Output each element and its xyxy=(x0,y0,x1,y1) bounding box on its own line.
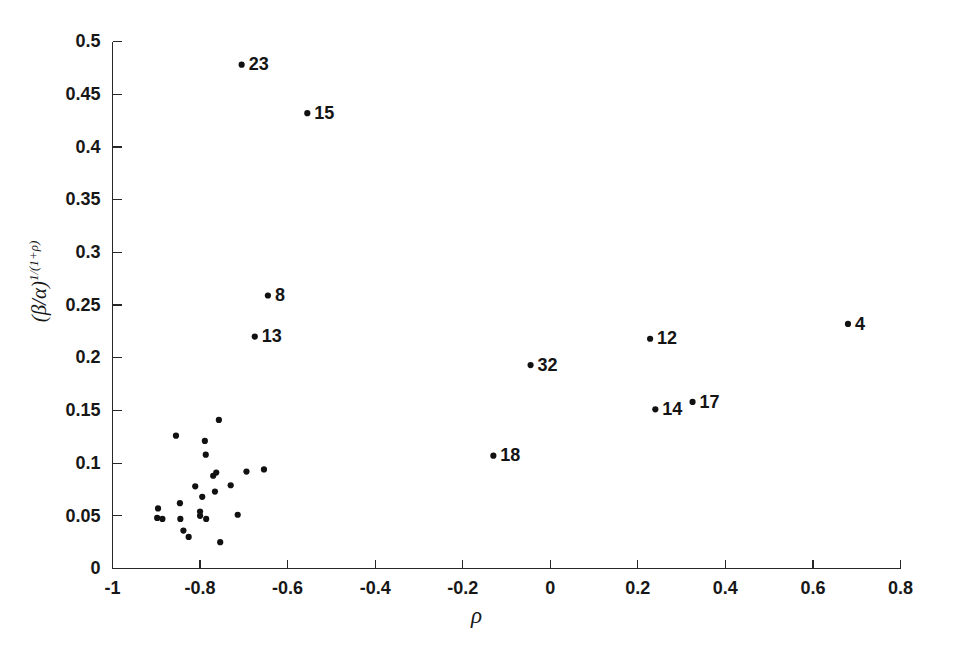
data-point xyxy=(213,469,219,475)
data-points-group xyxy=(154,62,851,546)
data-point xyxy=(203,516,209,522)
data-point-labeled xyxy=(652,406,658,412)
data-point-labeled xyxy=(304,110,310,116)
data-point-label: 14 xyxy=(662,399,682,419)
data-point-label: 23 xyxy=(249,54,269,74)
x-axis-tick-label: -0.6 xyxy=(272,578,303,598)
y-axis-label-base: (β/α) xyxy=(27,281,51,322)
x-axis-tick-label: 0.6 xyxy=(800,578,825,598)
y-axis-tick-label: 0.3 xyxy=(75,242,100,262)
data-point-labeled xyxy=(527,362,533,368)
data-point-label: 12 xyxy=(657,328,677,348)
data-point xyxy=(186,534,192,540)
y-axis-tick-label: 0.35 xyxy=(65,189,100,209)
y-axis-tick-label: 0.1 xyxy=(75,453,100,473)
y-axis-label-exponent: 1/(1+ρ) xyxy=(26,241,41,281)
y-axis-tick-label: 0.5 xyxy=(75,31,100,51)
y-axis-tick-label: 0.45 xyxy=(65,84,100,104)
data-point-label: 17 xyxy=(700,392,720,412)
data-point xyxy=(261,466,267,472)
data-point-labeled xyxy=(252,334,258,340)
tick-labels-group: 00.050.10.150.20.250.30.350.40.450.5-1-0… xyxy=(65,31,913,598)
x-axis-label: ρ xyxy=(0,604,953,627)
data-point-label: 15 xyxy=(314,103,334,123)
data-point-labeled xyxy=(490,453,496,459)
data-point-labeled xyxy=(845,321,851,327)
x-axis-tick-label: -0.4 xyxy=(360,578,391,598)
y-axis-tick-label: 0.4 xyxy=(75,137,100,157)
data-point xyxy=(202,438,208,444)
data-point xyxy=(154,515,160,521)
y-axis-tick-label: 0.25 xyxy=(65,295,100,315)
y-axis-tick-label: 0.15 xyxy=(65,400,100,420)
x-axis-label-text: ρ xyxy=(471,603,482,628)
data-point-labeled xyxy=(689,399,695,405)
data-point xyxy=(159,516,165,522)
data-point xyxy=(177,500,183,506)
y-axis-label: (β/α)1/(1+ρ) xyxy=(27,182,50,382)
x-axis-tick-label: -0.8 xyxy=(185,578,216,598)
x-axis-tick-label: 0.8 xyxy=(888,578,913,598)
point-labels-group: 231581341232171418 xyxy=(249,54,865,465)
data-point-labeled xyxy=(265,292,271,298)
data-point xyxy=(177,516,183,522)
y-axis-tick-label: 0 xyxy=(90,558,100,578)
data-point xyxy=(216,417,222,423)
data-point xyxy=(173,433,179,439)
x-axis-tick-label: 0.2 xyxy=(625,578,650,598)
data-point-label: 32 xyxy=(538,355,558,375)
data-point xyxy=(228,482,234,488)
data-point-labeled xyxy=(647,336,653,342)
data-point-label: 13 xyxy=(262,326,282,346)
y-axis-tick-label: 0.2 xyxy=(75,347,100,367)
data-point xyxy=(197,508,203,514)
data-point xyxy=(235,512,241,518)
data-point xyxy=(243,468,249,474)
scatter-plot-figure: 00.050.10.150.20.250.30.350.40.450.5-1-0… xyxy=(0,0,953,659)
data-point xyxy=(192,483,198,489)
x-axis-tick-label: -0.2 xyxy=(447,578,478,598)
x-axis-tick-label: 0.4 xyxy=(713,578,738,598)
data-point-label: 18 xyxy=(500,445,520,465)
data-point xyxy=(217,539,223,545)
ticks-group xyxy=(113,42,901,569)
data-point xyxy=(155,505,161,511)
axes-group xyxy=(113,42,901,569)
plot-canvas: 00.050.10.150.20.250.30.350.40.450.5-1-0… xyxy=(0,0,953,659)
data-point xyxy=(199,494,205,500)
data-point-label: 8 xyxy=(275,285,285,305)
y-axis-tick-label: 0.05 xyxy=(65,506,100,526)
data-point xyxy=(212,488,218,494)
data-point xyxy=(203,452,209,458)
x-axis-tick-label: 0 xyxy=(545,578,555,598)
data-point-label: 4 xyxy=(855,314,865,334)
data-point-labeled xyxy=(239,62,245,68)
x-axis-tick-label: -1 xyxy=(104,578,120,598)
data-point xyxy=(180,527,186,533)
